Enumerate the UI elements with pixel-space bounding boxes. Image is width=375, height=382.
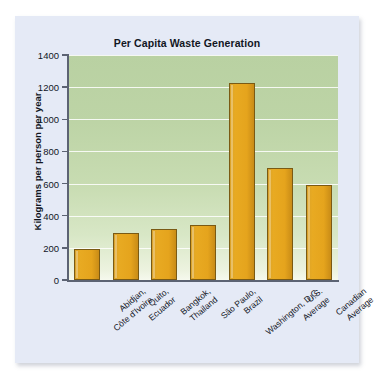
- bar[interactable]: [190, 225, 216, 280]
- y-axis-tick-label: 400: [19, 210, 59, 221]
- bar[interactable]: [267, 168, 293, 281]
- bar[interactable]: [306, 185, 332, 280]
- y-axis-tick-label: 1400: [19, 50, 59, 61]
- x-axis-category-label: Bangkok,Thailand: [179, 286, 220, 325]
- y-axis-tick-label: 200: [19, 242, 59, 253]
- gridline: [68, 119, 338, 120]
- bar[interactable]: [151, 229, 177, 280]
- y-axis-tick-mark: [62, 215, 68, 217]
- gridline: [68, 55, 338, 56]
- x-axis-category-label: U.S.Average: [294, 286, 332, 323]
- x-axis-category-label: CanadianAverage: [333, 286, 375, 326]
- figure-card: Per Capita Waste Generation Kilograms pe…: [15, 16, 359, 363]
- bar[interactable]: [74, 249, 100, 280]
- y-axis-tick-mark: [62, 86, 68, 88]
- y-axis-tick-label: 600: [19, 178, 59, 189]
- y-axis-tick-mark: [62, 151, 68, 153]
- y-axis-tick-label: 1200: [19, 82, 59, 93]
- bar-highlight: [153, 231, 155, 278]
- bar[interactable]: [229, 83, 255, 280]
- y-axis-tick-mark: [62, 183, 68, 185]
- y-axis-tick-mark: [62, 247, 68, 249]
- gridline: [68, 216, 338, 217]
- y-axis-tick-label: 0: [19, 275, 59, 286]
- bar-highlight: [76, 251, 78, 278]
- gridline: [68, 151, 338, 152]
- y-axis-tick-mark: [62, 54, 68, 56]
- x-axis-line: [67, 280, 339, 282]
- gridline: [68, 184, 338, 185]
- y-axis-tick-mark: [62, 119, 68, 121]
- bar-highlight: [269, 170, 271, 279]
- x-axis-category-label: São Paulo,Brazil: [219, 286, 265, 329]
- y-axis-tick-labels: 0200400600800100012001400: [15, 16, 59, 382]
- bar-highlight: [308, 187, 310, 278]
- plot-area: [68, 55, 338, 280]
- chart-title: Per Capita Waste Generation: [15, 37, 359, 49]
- bar-highlight: [115, 235, 117, 278]
- bar[interactable]: [113, 233, 139, 280]
- bar-highlight: [231, 85, 233, 278]
- y-axis-tick-label: 800: [19, 146, 59, 157]
- gridline: [68, 87, 338, 88]
- y-axis-tick-mark: [62, 279, 68, 281]
- chart-page: Per Capita Waste Generation Kilograms pe…: [0, 0, 375, 382]
- bar-highlight: [192, 227, 194, 278]
- y-axis-tick-label: 1000: [19, 114, 59, 125]
